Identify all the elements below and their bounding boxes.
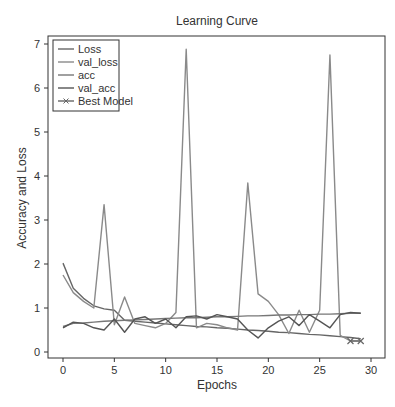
- x-tick-label: 0: [60, 364, 66, 376]
- x-tick-label: 15: [211, 364, 223, 376]
- y-tick-label: 1: [34, 302, 40, 314]
- y-tick-label: 5: [34, 126, 40, 138]
- x-tick-label: 5: [111, 364, 117, 376]
- learning-curve-chart: Learning Curve Epochs Accuracy and Loss …: [0, 0, 395, 407]
- x-axis-ticks: 051015202530: [60, 358, 377, 376]
- legend-label: Loss: [78, 43, 102, 55]
- y-tick-label: 4: [34, 170, 40, 182]
- y-tick-label: 3: [34, 214, 40, 226]
- x-tick-label: 10: [160, 364, 172, 376]
- legend-label: Best Model: [78, 95, 133, 107]
- legend-label: val_acc: [78, 82, 116, 94]
- x-tick-label: 25: [314, 364, 326, 376]
- x-tick-label: 30: [365, 364, 377, 376]
- y-axis-label: Accuracy and Loss: [15, 147, 29, 248]
- y-tick-label: 7: [34, 38, 40, 50]
- y-axis-ticks: 01234567: [34, 38, 48, 358]
- legend-label: acc: [78, 69, 96, 81]
- y-tick-label: 2: [34, 258, 40, 270]
- y-tick-label: 0: [34, 346, 40, 358]
- x-tick-label: 20: [262, 364, 274, 376]
- y-tick-label: 6: [34, 82, 40, 94]
- x-axis-label: Epochs: [197, 378, 237, 392]
- legend-label: val_loss: [78, 56, 118, 68]
- chart-title: Learning Curve: [176, 14, 258, 28]
